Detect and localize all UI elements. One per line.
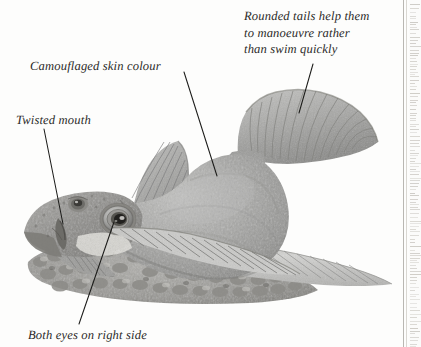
twisted-mouth-label: Twisted mouth [16,112,91,129]
both-eyes-on-right-side-label: Both eyes on right side [28,327,147,344]
adjacent-column-edge [409,0,421,347]
fish-head [24,192,142,258]
camouflaged-skin-colour-label: Camouflaged skin colour [30,58,161,75]
left-eye [68,196,88,212]
page-gutter-rule [403,0,404,347]
leader-line-skin [184,72,217,176]
rounded-tails-label: Rounded tails help them to manoeuvre rat… [244,8,370,58]
book-page: Rounded tails help them to manoeuvre rat… [0,0,421,347]
page-gutter-rule-secondary [406,0,407,347]
